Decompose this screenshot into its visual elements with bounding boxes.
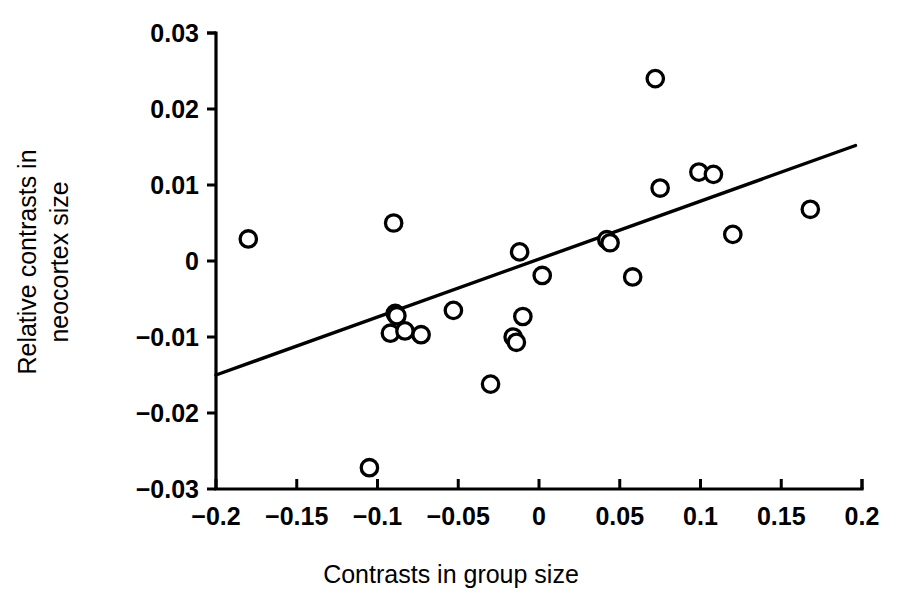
x-tick-label-3: −0.05 bbox=[427, 502, 490, 530]
x-tick-label-8: 0.2 bbox=[845, 502, 880, 530]
data-point-16 bbox=[602, 235, 618, 251]
data-point-23 bbox=[802, 201, 818, 217]
data-point-13 bbox=[515, 308, 531, 324]
x-tick-label-0: −0.2 bbox=[191, 502, 240, 530]
data-point-18 bbox=[647, 70, 663, 86]
y-axis-title-line2: neocortex size bbox=[45, 181, 73, 342]
data-point-0 bbox=[240, 231, 256, 247]
data-point-11 bbox=[508, 334, 524, 350]
y-tick-label-1: −0.02 bbox=[136, 399, 199, 427]
data-point-17 bbox=[624, 269, 640, 285]
y-tick-label-5: 0.02 bbox=[150, 95, 199, 123]
data-point-12 bbox=[511, 244, 527, 260]
x-axis-title-text: Contrasts in group size bbox=[323, 560, 579, 588]
data-point-14 bbox=[534, 267, 550, 283]
scatter-plot-figure: −0.2−0.15−0.1−0.0500.050.10.150.2 −0.03−… bbox=[0, 0, 902, 616]
data-point-19 bbox=[652, 180, 668, 196]
data-point-9 bbox=[482, 376, 498, 392]
y-axis-title-line1: Relative contrasts in bbox=[13, 149, 41, 374]
data-point-3 bbox=[385, 215, 401, 231]
data-point-21 bbox=[705, 166, 721, 182]
x-axis-tick-labels: −0.2−0.15−0.1−0.0500.050.10.150.2 bbox=[191, 502, 879, 530]
y-tick-label-3: 0 bbox=[185, 247, 199, 275]
data-point-8 bbox=[445, 302, 461, 318]
plot-canvas: −0.2−0.15−0.1−0.0500.050.10.150.2 −0.03−… bbox=[0, 0, 902, 616]
y-tick-label-2: −0.01 bbox=[136, 323, 199, 351]
x-tick-label-7: 0.15 bbox=[757, 502, 806, 530]
x-axis-title: Contrasts in group size bbox=[323, 560, 579, 588]
x-tick-label-2: −0.1 bbox=[353, 502, 402, 530]
data-point-6 bbox=[397, 323, 413, 339]
x-tick-label-1: −0.15 bbox=[265, 502, 328, 530]
x-tick-label-5: 0.05 bbox=[595, 502, 644, 530]
data-point-1 bbox=[361, 460, 377, 476]
y-tick-label-4: 0.01 bbox=[150, 171, 199, 199]
x-tick-label-4: 0 bbox=[532, 502, 546, 530]
x-tick-label-6: 0.1 bbox=[683, 502, 718, 530]
data-point-22 bbox=[725, 226, 741, 242]
y-tick-label-0: −0.03 bbox=[136, 475, 199, 503]
data-point-7 bbox=[413, 327, 429, 343]
y-tick-label-6: 0.03 bbox=[150, 19, 199, 47]
